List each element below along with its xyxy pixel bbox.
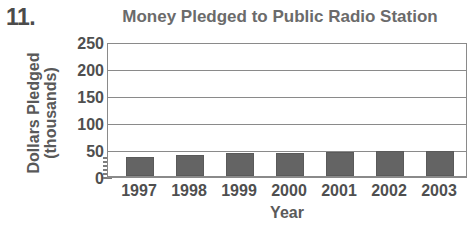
x-tick-label: 2001 (314, 181, 364, 200)
bar-2001 (326, 152, 354, 176)
y-axis-title-line-1: Dollars Pledged (26, 53, 43, 174)
bar-1999 (226, 153, 254, 176)
y-tick-label: 250 (62, 36, 104, 52)
plot-area (107, 43, 467, 178)
x-tick-label: 2000 (264, 181, 314, 200)
x-axis-title: Year (107, 203, 467, 222)
x-tick-label: 1998 (164, 181, 214, 200)
x-tick-label: 1999 (214, 181, 264, 200)
x-axis-tick-labels: 1997 1998 1999 2000 2001 2002 2003 (107, 181, 467, 205)
bar-1998 (176, 155, 204, 176)
bar-2003 (426, 151, 454, 176)
bar-1997 (126, 157, 154, 176)
y-tick-label: 100 (62, 117, 104, 133)
y-tick-label: 50 (62, 144, 104, 160)
x-tick-label: 2002 (364, 181, 414, 200)
bars-layer (108, 44, 466, 176)
problem-number: 11. (6, 6, 35, 29)
y-tick-label: 0 (62, 171, 104, 187)
bar-2000 (276, 153, 304, 176)
y-tick-label: 200 (62, 63, 104, 79)
bar-2002 (376, 151, 404, 176)
chart-page: 11. Money Pledged to Public Radio Statio… (0, 0, 472, 238)
y-tick-label: 150 (62, 90, 104, 106)
y-axis-tick-labels: 250 200 150 100 50 0 (58, 0, 104, 238)
chart-title: Money Pledged to Public Radio Station (90, 8, 470, 27)
x-tick-label: 2003 (414, 181, 464, 200)
x-tick-label: 1997 (114, 181, 164, 200)
